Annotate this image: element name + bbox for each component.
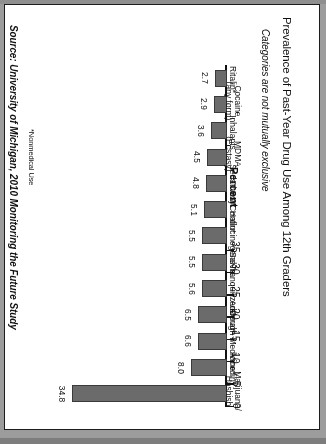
source-note: Source: University of Michigan, 2010 Mon… <box>8 25 19 330</box>
bar-value-label: 4.8 <box>189 175 203 192</box>
table-row: 3.6 <box>71 122 227 139</box>
bar <box>203 254 228 271</box>
chart-page: Prevalence of Past-Year Drug Use Among 1… <box>4 4 320 430</box>
bar-value-label: 2.9 <box>197 96 211 113</box>
scan-edge-bottom <box>0 438 326 444</box>
bar <box>215 70 227 87</box>
plot-area: 34.8Marijuana/Hashish8.0Vicodin*6.6Cough… <box>71 65 227 407</box>
table-row: 6.5 <box>71 306 227 323</box>
bar-value-label: 4.5 <box>190 149 204 166</box>
bar-chart-figure: Prevalence of Past-Year Drug Use Among 1… <box>5 5 319 429</box>
table-row: 5.5 <box>71 228 227 245</box>
bar <box>204 201 227 218</box>
bar <box>191 359 227 376</box>
table-row: 6.6 <box>71 333 227 350</box>
bar <box>203 228 228 245</box>
table-row: 2.7 <box>71 70 227 87</box>
table-row: 5.1 <box>71 201 227 218</box>
bar-value-label: 8.0 <box>174 359 188 376</box>
bar-value-label: 5.1 <box>187 201 201 218</box>
footnote: *Nonmedical Use <box>27 129 36 185</box>
bar <box>72 385 227 402</box>
bar-value-label: 3.6 <box>194 122 208 139</box>
table-row: 4.5 <box>71 149 227 166</box>
bar <box>198 333 227 350</box>
table-row: 5.6 <box>71 280 227 297</box>
bar <box>202 280 227 297</box>
table-row: 2.9 <box>71 96 227 113</box>
bar-value-label: 5.5 <box>186 254 200 271</box>
bar <box>198 306 227 323</box>
bar-value-label: 6.5 <box>181 306 195 323</box>
bar-value-label: 5.6 <box>185 280 199 297</box>
rotated-figure-wrapper: Prevalence of Past-Year Drug Use Among 1… <box>5 5 319 429</box>
bar-value-label: 34.8 <box>55 385 69 402</box>
table-row: 4.8 <box>71 175 227 192</box>
chart-subtitle: Categories are not mutually exclusive <box>260 29 271 192</box>
bar-value-label: 5.5 <box>186 228 200 245</box>
table-row: 34.8 <box>71 385 227 402</box>
bar-value-label: 6.6 <box>181 333 195 350</box>
chart-title: Prevalence of Past-Year Drug Use Among 1… <box>281 17 293 297</box>
bar-value-label: 2.7 <box>198 70 212 87</box>
category-label: Ritalin* <box>229 40 238 120</box>
table-row: 8.0 <box>71 359 227 376</box>
table-row: 5.5 <box>71 254 227 271</box>
